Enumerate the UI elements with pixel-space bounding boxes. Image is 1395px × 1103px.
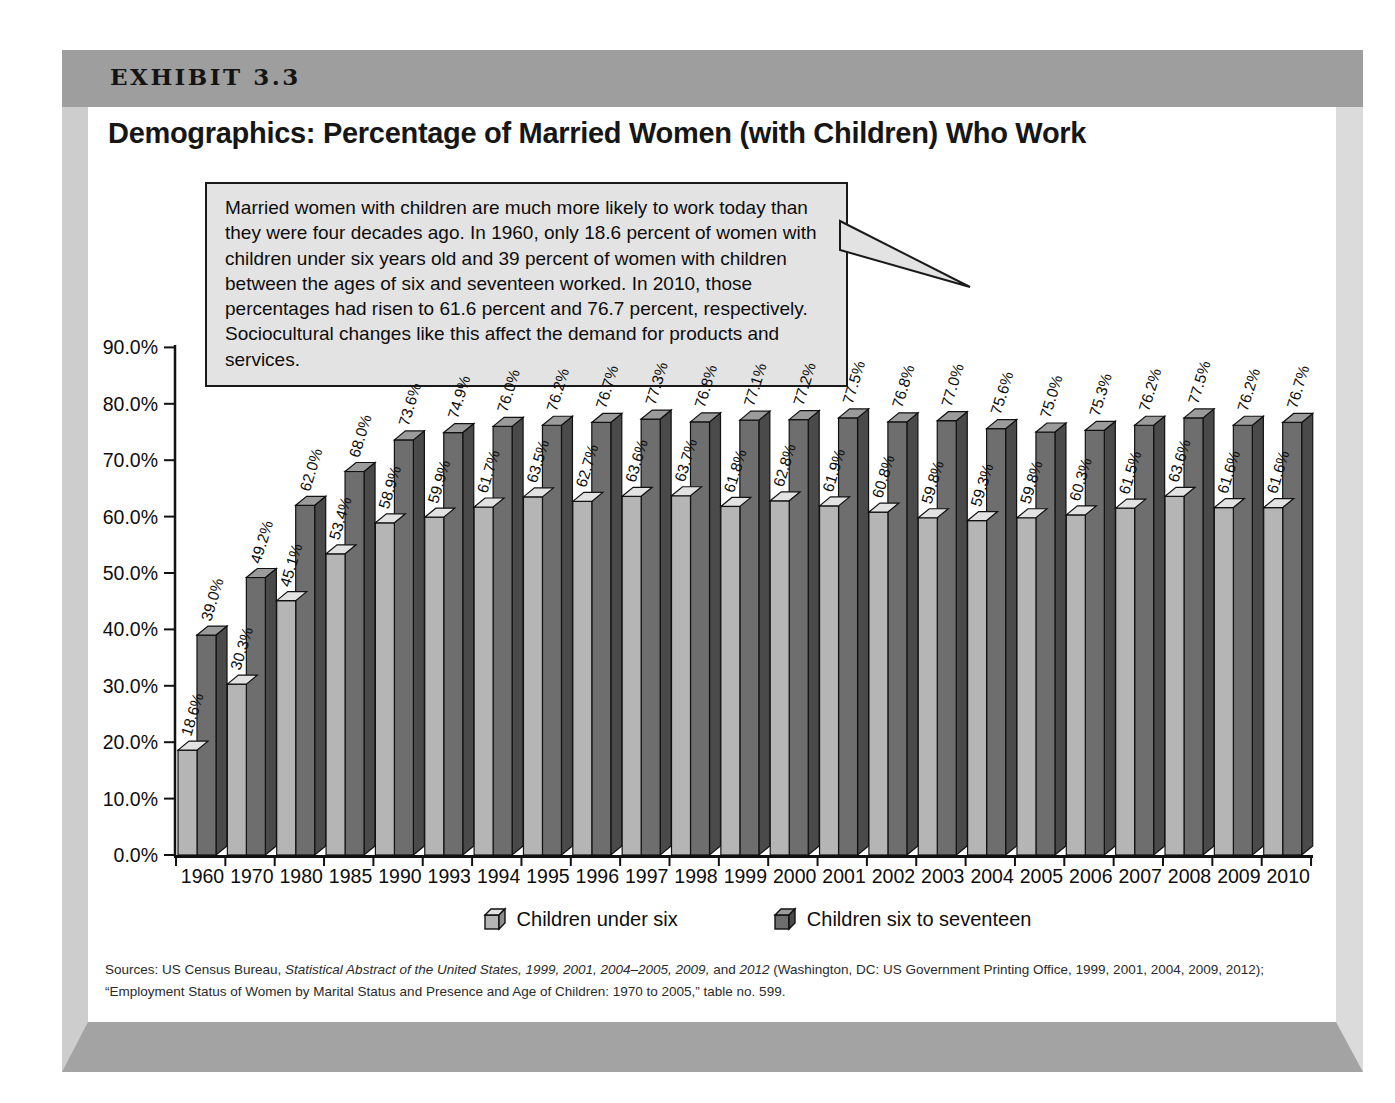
value-label: 77.5% (1185, 359, 1214, 406)
bar-six-to-seventeen (1283, 422, 1302, 855)
value-label: 77.0% (938, 361, 967, 408)
value-label: 73.6% (395, 381, 424, 428)
x-category-label: 1993 (428, 865, 471, 887)
bar-group-2001: 77.5%61.9%2001 (819, 359, 868, 887)
bar-side-face (1154, 416, 1165, 855)
bar-group-1985: 68.0%53.4%1985 (326, 412, 375, 887)
bar-group-1996: 76.7%62.7%1996 (572, 363, 621, 887)
bar-under-six (721, 506, 740, 855)
bar-side-face (759, 411, 770, 855)
x-category-label: 2007 (1118, 865, 1161, 887)
bar-group-2008: 77.5%63.6%2008 (1165, 359, 1214, 887)
exhibit-header-band: EXHIBIT 3.3 (62, 50, 1363, 107)
bar-under-six (573, 501, 592, 855)
legend-item-children-under-six: Children under six (483, 907, 678, 932)
value-label: 76.2% (543, 366, 572, 413)
legend-label: Children six to seventeen (807, 908, 1032, 931)
bar-group-2005: 75.0%59.8%2005 (1017, 373, 1066, 887)
bar-six-to-seventeen (1085, 430, 1104, 855)
bar-side-face (808, 411, 819, 855)
x-category-label: 1997 (625, 865, 668, 887)
bar-group-1970: 49.2%30.3%1970 (227, 518, 276, 887)
bar-side-face (611, 413, 622, 855)
y-tick-label: 90.0% (103, 336, 158, 358)
bar-group-1995: 76.2%63.5%1995 (523, 366, 572, 887)
bar-side-face (1302, 413, 1313, 855)
x-category-label: 2004 (970, 865, 1014, 887)
value-label: 75.0% (1037, 373, 1066, 420)
x-category-label: 2001 (822, 865, 865, 887)
bar-six-to-seventeen (888, 422, 907, 855)
value-label: 76.0% (494, 367, 523, 414)
x-category-label: 2003 (921, 865, 964, 887)
x-category-label: 2006 (1069, 865, 1112, 887)
x-category-label: 1996 (576, 865, 619, 887)
bar-side-face (1006, 420, 1017, 855)
bar-six-to-seventeen (246, 578, 265, 855)
legend-cube-icon-light (483, 907, 508, 932)
x-category-label: 2005 (1020, 865, 1064, 887)
value-label: 49.2% (247, 518, 276, 565)
bar-group-2003: 77.0%59.8%2003 (918, 361, 967, 887)
bar-under-six (770, 501, 789, 855)
bar-chart-canvas: 0.0%10.0%20.0%30.0%40.0%50.0%60.0%70.0%8… (95, 335, 1335, 895)
value-label: 77.2% (790, 360, 819, 407)
bar-side-face (660, 410, 671, 855)
x-category-label: 1970 (230, 865, 274, 887)
bar-group-1999: 77.1%61.8%1999 (720, 361, 769, 887)
x-category-label: 1994 (477, 865, 521, 887)
bar-under-six (1165, 496, 1184, 855)
sources-segment: Sources: US Census Bureau, (105, 962, 285, 977)
bar-group-1960: 39.0%18.6%1960 (178, 576, 227, 887)
bar-six-to-seventeen (789, 420, 808, 855)
bar-group-1980: 62.0%45.1%1980 (276, 446, 325, 887)
bar-group-1990: 73.6%58.9%1990 (375, 381, 424, 887)
bar-six-to-seventeen (1135, 425, 1154, 855)
value-label: 76.7% (592, 363, 621, 410)
bar-six-to-seventeen (394, 440, 413, 855)
bar-group-1993: 74.9%59.9%1993 (424, 373, 473, 887)
bar-six-to-seventeen (839, 418, 858, 855)
bar-under-six (1214, 508, 1233, 855)
value-label: 76.7% (1283, 363, 1312, 410)
value-label: 75.3% (1086, 371, 1115, 418)
legend-cube-icon-dark (773, 907, 798, 932)
bar-six-to-seventeen (444, 433, 463, 855)
bar-side-face (710, 413, 721, 855)
bar-group-1998: 76.8%63.7%1998 (671, 363, 720, 887)
y-tick-label: 70.0% (103, 449, 158, 471)
sources-segment: 2012 (739, 962, 769, 977)
bar-side-face (512, 417, 523, 855)
y-tick-label: 30.0% (103, 675, 158, 697)
page-title: Demographics: Percentage of Married Wome… (108, 117, 1086, 150)
value-label: 76.2% (1234, 366, 1263, 413)
exhibit-frame: EXHIBIT 3.3 Demographics: Percentage of … (62, 50, 1363, 1072)
y-tick-label: 20.0% (103, 731, 158, 753)
bar-under-six (672, 496, 691, 855)
bar-group-2002: 76.8%60.8%2002 (869, 363, 918, 887)
bar-under-six (326, 554, 345, 855)
legend-label: Children under six (517, 908, 678, 931)
bar-group-1997: 77.3%63.6%1997 (622, 360, 671, 887)
bar-side-face (265, 569, 276, 855)
bar-under-six (375, 523, 394, 855)
value-label: 68.0% (346, 412, 375, 459)
bar-group-2006: 75.3%60.3%2006 (1066, 371, 1115, 887)
sources-segment: Statistical Abstract of the United State… (285, 962, 709, 977)
value-label: 75.6% (987, 369, 1016, 416)
value-label: 77.5% (839, 359, 868, 406)
exhibit-number: EXHIBIT 3.3 (110, 63, 301, 90)
x-category-label: 1960 (181, 865, 225, 887)
bar-group-2010: 76.7%61.6%2010 (1263, 363, 1312, 887)
y-tick-label: 60.0% (103, 506, 158, 528)
value-label: 74.9% (444, 373, 473, 420)
y-tick-label: 0.0% (114, 844, 158, 866)
legend-item-children-six-to-seventeen: Children six to seventeen (773, 907, 1032, 932)
bar-six-to-seventeen (1036, 432, 1055, 855)
bar-six-to-seventeen (592, 422, 611, 855)
x-category-label: 2008 (1168, 865, 1211, 887)
bar-side-face (216, 626, 227, 855)
bar-side-face (1203, 409, 1214, 855)
bar-chart: 0.0%10.0%20.0%30.0%40.0%50.0%60.0%70.0%8… (95, 335, 1335, 895)
bar-under-six (1264, 508, 1283, 855)
